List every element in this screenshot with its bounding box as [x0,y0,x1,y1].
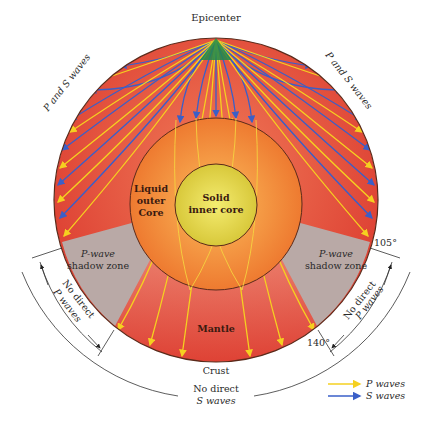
p-shadow-left-label-1: P-wave [80,248,115,259]
no-direct-s-label-1: No direct [193,383,239,394]
p-shadow-left-label-2: shadow zone [67,260,129,271]
outer-core-label-3: Core [139,207,164,218]
seismic-diagram: Epicenter P and S waves P and S waves Li… [0,0,431,425]
legend-p-waves: P waves [365,378,405,389]
p-shadow-right-label-2: shadow zone [305,260,367,271]
epicenter-label: Epicenter [191,12,241,23]
legend: P waves S waves [328,378,405,401]
legend-s-waves: S waves [366,390,405,401]
outer-core-label-2: outer [137,195,167,206]
mantle-label: Mantle [197,323,235,334]
tick-105-right [370,248,400,258]
angle-140-label: 140° [307,337,330,348]
arrow-up-left [41,265,48,285]
tick-105-left [32,248,62,258]
tick-140-left [98,330,114,356]
inner-core-label-2: inner core [189,204,244,215]
inner-core-label-1: Solid [202,192,229,203]
outer-core-label-1: Liquid [134,183,168,194]
crust-label: Crust [203,365,230,376]
no-direct-s-label-2: S waves [196,395,235,406]
arrow-up-right [384,265,391,285]
angle-105-label: 105° [374,237,397,248]
p-shadow-right-label-1: P-wave [318,248,353,259]
